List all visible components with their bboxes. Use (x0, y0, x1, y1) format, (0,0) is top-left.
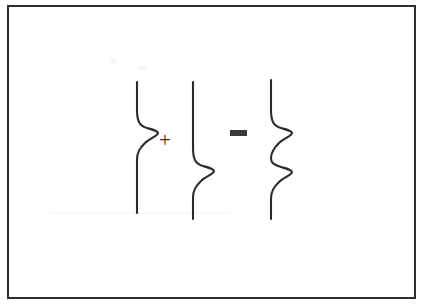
equals-operator-symbol: = (230, 130, 247, 136)
wave-curve-pulse-a (137, 82, 158, 213)
wave-curve-pulse-sum (271, 80, 292, 219)
waveform-drawing-layer (0, 0, 425, 307)
plus-operator-symbol: + (159, 130, 171, 151)
wave-curve-pulse-b (193, 82, 214, 219)
figure-container: + = (0, 0, 425, 307)
